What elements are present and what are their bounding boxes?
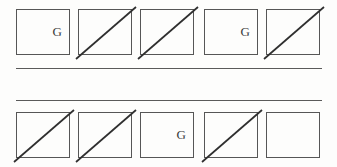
square-cell[interactable]: G (16, 9, 70, 55)
diagonal-slash-icon (74, 5, 138, 61)
worksheet-sheet: GG G (0, 0, 337, 167)
upper-rule (16, 68, 322, 69)
square-cell[interactable] (78, 112, 132, 158)
square-cell[interactable]: G (140, 112, 194, 158)
cell-letter: G (176, 128, 186, 141)
square-cell[interactable] (78, 9, 132, 55)
diagonal-slash-icon (200, 108, 264, 164)
square-cell[interactable] (266, 9, 320, 55)
square-cell[interactable]: G (204, 9, 258, 55)
diagonal-slash-icon (136, 5, 200, 61)
diagonal-slash-icon (74, 108, 138, 164)
square-cell[interactable] (140, 9, 194, 55)
cell-letter: G (52, 25, 62, 38)
lower-rule (16, 100, 322, 101)
square-cell[interactable] (204, 112, 258, 158)
cell-letter: G (240, 25, 250, 38)
square-cell[interactable] (16, 112, 70, 158)
diagonal-slash-icon (262, 5, 326, 61)
square-cell[interactable] (266, 112, 320, 158)
diagonal-slash-icon (12, 108, 76, 164)
